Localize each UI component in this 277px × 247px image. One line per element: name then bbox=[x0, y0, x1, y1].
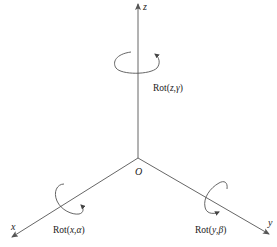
rotation-z-arrow-icon bbox=[115, 52, 160, 73]
rotation-x-arrow-icon bbox=[55, 184, 83, 214]
z-axis-label: z bbox=[142, 1, 147, 12]
coordinate-frame-diagram: z x y O Rot(z,γ) Rot(x,α) Rot(y,β) bbox=[0, 0, 277, 247]
rotation-y-label: Rot(y,β) bbox=[195, 225, 226, 236]
rotation-y-arrow-icon bbox=[205, 182, 227, 214]
x-axis-label: x bbox=[10, 221, 16, 232]
rotation-x-label: Rot(x,α) bbox=[53, 225, 85, 236]
origin-label: O bbox=[135, 166, 142, 177]
rotation-z-label: Rot(z,γ) bbox=[153, 83, 183, 94]
y-axis bbox=[138, 158, 269, 234]
y-axis-label: y bbox=[267, 217, 273, 228]
